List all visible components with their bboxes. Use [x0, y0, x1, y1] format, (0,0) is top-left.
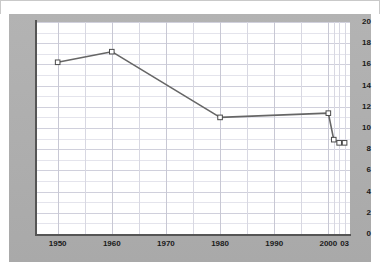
- data-point-marker: [326, 111, 331, 116]
- x-tick-label: 1980: [207, 239, 233, 248]
- x-tick-label: 1970: [153, 239, 179, 248]
- y-tick-label: 18: [349, 39, 371, 47]
- data-point-marker: [55, 60, 60, 65]
- x-axis-line: [35, 234, 351, 236]
- series-1-line: [58, 52, 345, 143]
- chart-page: 02468101214161820 1950196019701980199020…: [0, 0, 380, 271]
- y-tick-label: 20: [349, 18, 371, 26]
- y-tick-label: 12: [349, 103, 371, 111]
- data-point-marker: [109, 49, 114, 54]
- x-tick-label: 1960: [99, 239, 125, 248]
- data-point-marker: [342, 141, 347, 146]
- series-layer: [36, 22, 350, 234]
- y-tick-label: 6: [349, 166, 371, 174]
- y-tick-label: 2: [349, 209, 371, 217]
- data-point-marker: [337, 141, 342, 146]
- data-point-marker: [218, 115, 223, 120]
- y-tick-label: 0: [349, 230, 371, 238]
- x-tick-label: 03: [332, 239, 358, 248]
- x-tick-label: 1990: [261, 239, 287, 248]
- y-tick-label: 10: [349, 124, 371, 132]
- data-point-marker: [331, 137, 336, 142]
- y-tick-label: 4: [349, 188, 371, 196]
- top-white-strip: [0, 0, 380, 14]
- y-tick-label: 14: [349, 82, 371, 90]
- y-tick-label: 8: [349, 145, 371, 153]
- line-chart: 02468101214161820 1950196019701980199020…: [9, 14, 371, 262]
- series-1-markers: [55, 49, 347, 145]
- x-tick-label: 1950: [45, 239, 71, 248]
- y-tick-label: 16: [349, 60, 371, 68]
